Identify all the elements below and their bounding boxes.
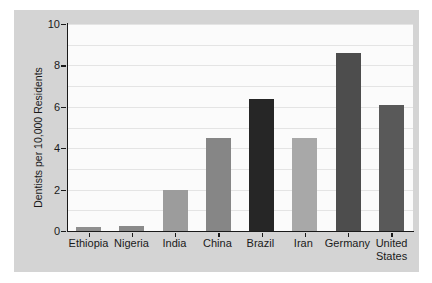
x-tick-mark-china (218, 233, 219, 237)
x-tick-mark-ethiopia (89, 233, 90, 237)
y-tick-label-10: 10 (28, 19, 60, 30)
bar-united-states (379, 105, 404, 231)
x-label-nigeria: Nigeria (110, 237, 153, 263)
x-label-ethiopia: Ethiopia (67, 237, 110, 263)
bar-slot-india (154, 24, 197, 231)
x-label-germany: Germany (325, 237, 370, 263)
x-label-china: China (196, 237, 239, 263)
y-tick-mark-6 (61, 107, 66, 108)
bar-iran (292, 138, 317, 231)
bar-slot-china (197, 24, 240, 231)
y-tick-mark-4 (61, 148, 66, 149)
x-label-brazil: Brazil (239, 237, 282, 263)
bar-germany (336, 53, 361, 231)
bar-india (163, 190, 188, 231)
x-label-iran: Iran (282, 237, 325, 263)
chart-figure: 0246810 EthiopiaNigeriaIndiaChinaBrazilI… (14, 10, 419, 272)
y-tick-mark-0 (61, 231, 66, 232)
bar-china (206, 138, 231, 231)
bar-slot-nigeria (110, 24, 153, 231)
bar-slot-germany (327, 24, 370, 231)
y-axis-title: Dentists per 10,000 Residents (33, 34, 46, 241)
bar-slot-iran (283, 24, 326, 231)
y-tick-mark-10 (61, 24, 66, 25)
y-axis-line (67, 23, 69, 231)
x-axis-line (67, 231, 414, 233)
bar-slot-united-states (370, 24, 413, 231)
bars-container (67, 24, 413, 231)
x-label-india: India (153, 237, 196, 263)
bar-slot-brazil (240, 24, 283, 231)
x-tick-mark-brazil (262, 233, 263, 237)
bar-slot-ethiopia (67, 24, 110, 231)
page-background: 0246810 EthiopiaNigeriaIndiaChinaBrazilI… (0, 0, 432, 283)
bar-brazil (249, 99, 274, 231)
x-tick-mark-united-states (391, 233, 392, 237)
x-tick-mark-germany (348, 233, 349, 237)
x-label-united-states: United States (370, 237, 413, 263)
y-tick-mark-8 (61, 65, 66, 66)
x-axis-labels: EthiopiaNigeriaIndiaChinaBrazilIranGerma… (67, 237, 413, 263)
x-tick-mark-nigeria (132, 233, 133, 237)
x-tick-mark-iran (305, 233, 306, 237)
y-tick-mark-2 (61, 190, 66, 191)
x-tick-mark-india (175, 233, 176, 237)
